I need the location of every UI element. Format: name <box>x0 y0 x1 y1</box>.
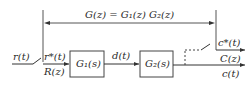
arrow-right-icon <box>209 21 215 25</box>
intermediate-label: d(t) <box>112 50 130 61</box>
arrow-left-icon <box>44 21 50 25</box>
output-z-label: C(z) <box>220 53 241 64</box>
output-sampler-switch <box>201 44 210 50</box>
block-g1-label: G₁(s) <box>76 58 101 69</box>
transfer-label: G(z) = G₁(z) G₂(z) <box>85 9 174 20</box>
sampled-input-label: r*(t) <box>44 51 66 62</box>
block-diagram: G(z) = G₁(z) G₂(z) r(t) r*(t) R(z) G₁(s)… <box>0 0 251 85</box>
sampled-output-label: c*(t) <box>218 37 241 48</box>
input-label: r(t) <box>13 51 30 62</box>
input-sampler-switch <box>33 58 41 64</box>
output-label: c(t) <box>222 68 240 79</box>
diagram-canvas: G(z) = G₁(z) G₂(z) r(t) r*(t) R(z) G₁(s)… <box>0 0 251 85</box>
block-g2-label: G₂(s) <box>145 58 170 69</box>
input-z-label: R(z) <box>43 66 65 77</box>
